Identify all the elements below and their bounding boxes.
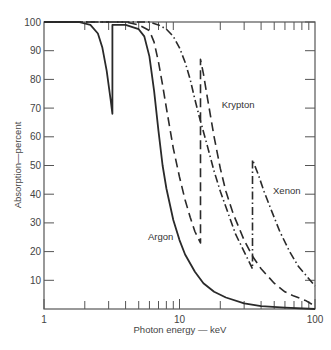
- absorption-chart: 102030405060708090100110100 ArgonKrypton…: [0, 0, 331, 350]
- axis-ticks: [44, 22, 315, 309]
- absorption-curves: [44, 22, 315, 309]
- x-tick-label: 1: [41, 314, 47, 325]
- y-tick-label: 50: [30, 160, 42, 171]
- plot-axes: [44, 22, 315, 309]
- krypton-curve: [44, 22, 315, 306]
- y-tick-label: 60: [30, 131, 42, 142]
- argon-curve: [44, 22, 315, 309]
- y-axis-title: Absorption—percent: [12, 121, 23, 208]
- tick-labels: 102030405060708090100110100: [24, 17, 323, 326]
- argon-label: Argon: [148, 231, 173, 242]
- y-tick-label: 100: [24, 17, 41, 28]
- y-tick-label: 90: [30, 45, 42, 56]
- x-axis-title: Photon energy — keV: [134, 324, 228, 335]
- x-tick-label: 100: [307, 314, 324, 325]
- xenon-curve: [44, 22, 315, 286]
- xenon-label: Xenon: [273, 185, 300, 196]
- y-tick-label: 10: [30, 275, 42, 286]
- y-tick-label: 40: [30, 189, 42, 200]
- y-tick-label: 30: [30, 217, 42, 228]
- y-tick-label: 70: [30, 103, 42, 114]
- krypton-label: Krypton: [222, 99, 255, 110]
- series-labels: ArgonKryptonXenon: [148, 99, 301, 242]
- y-tick-label: 20: [30, 246, 42, 257]
- y-tick-label: 80: [30, 74, 42, 85]
- plot-frame: [44, 22, 315, 309]
